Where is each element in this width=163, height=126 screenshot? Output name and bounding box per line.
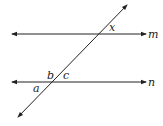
angle-label-a: a xyxy=(33,82,40,95)
parallel-lines-diagram: x b c a m n xyxy=(0,0,163,126)
angle-label-b: b xyxy=(47,69,54,82)
line-label-n: n xyxy=(148,76,155,89)
line-label-m: m xyxy=(148,28,158,41)
angle-label-c: c xyxy=(63,69,69,82)
angle-label-x: x xyxy=(109,21,116,34)
